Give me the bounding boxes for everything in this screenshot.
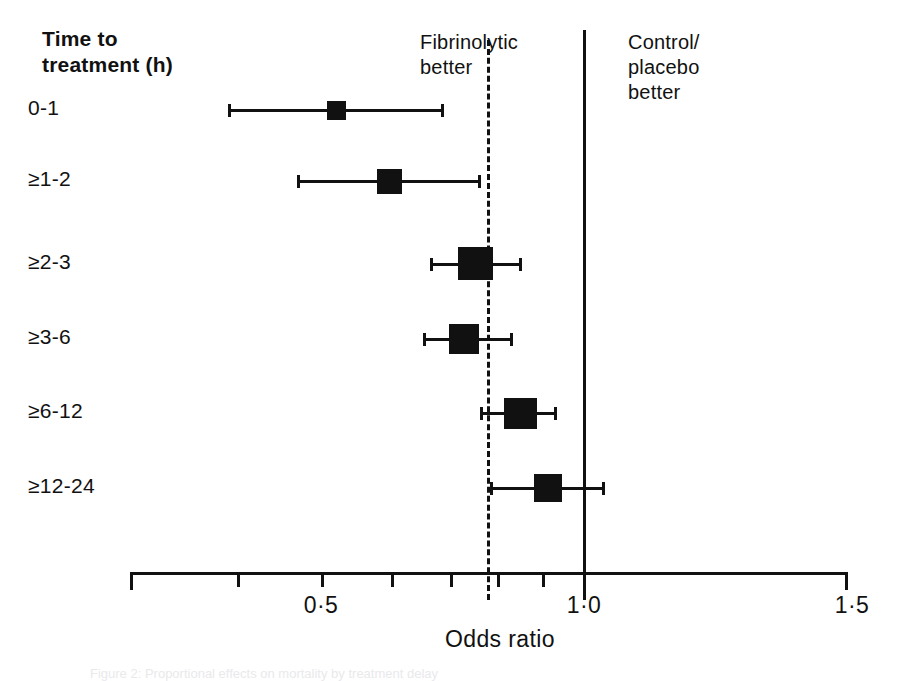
ci-cap-left-2-3 xyxy=(430,258,433,271)
row-label-0-1: 0-1 xyxy=(28,96,59,120)
x-axis-tick-start xyxy=(130,572,133,590)
point-marker-1-2 xyxy=(377,169,402,194)
x-axis-tick-0-9 xyxy=(542,572,545,587)
annotation-control-placebo-better: Control/ placebo better xyxy=(628,30,700,105)
row-label-3-6: ≥3-6 xyxy=(28,325,71,349)
x-axis-tick-0-5 xyxy=(321,572,324,587)
x-axis-label-0-5: 0·5 xyxy=(304,592,338,619)
ci-cap-left-0-1 xyxy=(228,104,231,117)
x-axis-tick-0-8 xyxy=(497,572,500,587)
point-marker-12-24 xyxy=(534,474,562,502)
ci-cap-left-1-2 xyxy=(297,175,300,188)
ci-cap-right-6-12 xyxy=(554,407,557,420)
x-axis-tick-0-7 xyxy=(450,572,453,587)
ci-cap-left-3-6 xyxy=(423,333,426,346)
figure-caption: Figure 2: Proportional effects on mortal… xyxy=(90,666,790,681)
x-axis-tick-0-6 xyxy=(391,572,394,587)
row-label-6-12: ≥6-12 xyxy=(28,399,83,423)
reference-line-null-effect-solid xyxy=(583,30,586,600)
reference-line-pooled-estimate-dashed xyxy=(487,40,490,600)
ci-cap-left-6-12 xyxy=(480,407,483,420)
row-label-12-24: ≥12-24 xyxy=(28,474,95,498)
x-axis-tick-1-0 xyxy=(583,572,586,587)
ci-cap-right-3-6 xyxy=(510,333,513,346)
ci-cap-right-1-2 xyxy=(478,175,481,188)
row-label-1-2: ≥1-2 xyxy=(28,167,71,191)
column-header-time-to-treatment: Time to treatment (h) xyxy=(42,26,173,78)
ci-cap-right-12-24 xyxy=(602,482,605,495)
point-marker-2-3 xyxy=(458,247,493,280)
x-axis-label-1-0: 1·0 xyxy=(567,592,601,619)
x-axis-title: Odds ratio xyxy=(445,626,555,653)
ci-cap-left-12-24 xyxy=(490,482,493,495)
annotation-fibrinolytic-better: Fibrinolytic better xyxy=(420,30,518,80)
point-marker-6-12 xyxy=(504,398,537,429)
ci-cap-right-2-3 xyxy=(519,258,522,271)
point-marker-0-1 xyxy=(327,101,346,120)
x-axis-tick-0-45 xyxy=(237,572,240,587)
ci-cap-right-0-1 xyxy=(441,104,444,117)
row-label-2-3: ≥2-3 xyxy=(28,250,71,274)
point-marker-3-6 xyxy=(449,324,479,354)
x-axis-label-1-5: 1·5 xyxy=(835,592,869,619)
x-axis-tick-end xyxy=(845,572,848,590)
